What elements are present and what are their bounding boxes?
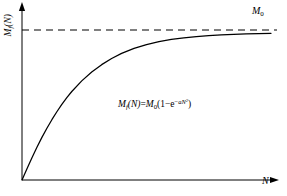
y-axis-label-argument: (N) — [3, 14, 13, 27]
equation-lhs-argument: (N) — [128, 99, 141, 109]
plot-area — [0, 0, 287, 196]
equation-open-paren-term: (1−e — [157, 99, 175, 109]
figure-canvas: Mf(N) N M0 Mf(N)=M0(1−e−aN2) — [0, 0, 287, 196]
asymptote-label-subscript: 0 — [260, 10, 264, 18]
x-axis-label: N — [262, 176, 269, 186]
x-axis-arrowhead — [270, 177, 279, 183]
equation-exponent: −aN2 — [175, 98, 189, 105]
asymptote-label: M0 — [252, 6, 264, 18]
y-axis-arrowhead — [19, 2, 25, 11]
equation-rhs-base: M — [146, 99, 154, 109]
equation-annotation: Mf(N)=M0(1−e−aN2) — [118, 99, 191, 111]
equation-close-paren: ) — [188, 99, 191, 109]
equation-lhs-base: M — [118, 99, 126, 109]
y-axis-label: Mf(N) — [4, 3, 15, 47]
y-axis-label-base: M — [3, 29, 13, 37]
y-axis-label-subscript: f — [7, 27, 14, 29]
